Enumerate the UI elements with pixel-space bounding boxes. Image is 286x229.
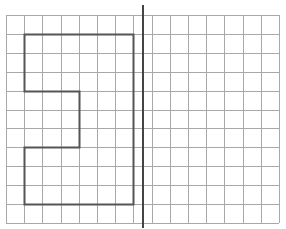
reflection-grid-diagram — [0, 0, 286, 229]
